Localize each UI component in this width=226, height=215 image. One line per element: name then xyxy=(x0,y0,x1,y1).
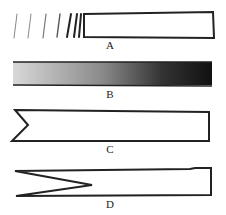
panel-d-label: D xyxy=(100,198,120,210)
panel-b-shape xyxy=(13,62,212,86)
panel-c-label: C xyxy=(100,143,120,155)
panel-a-label: A xyxy=(100,39,120,51)
figure-canvas xyxy=(0,0,226,215)
panel-b-label: B xyxy=(100,88,120,100)
panel-c-shape xyxy=(12,110,209,141)
panel-d-shape xyxy=(15,168,211,196)
panel-a-shape xyxy=(14,12,214,38)
